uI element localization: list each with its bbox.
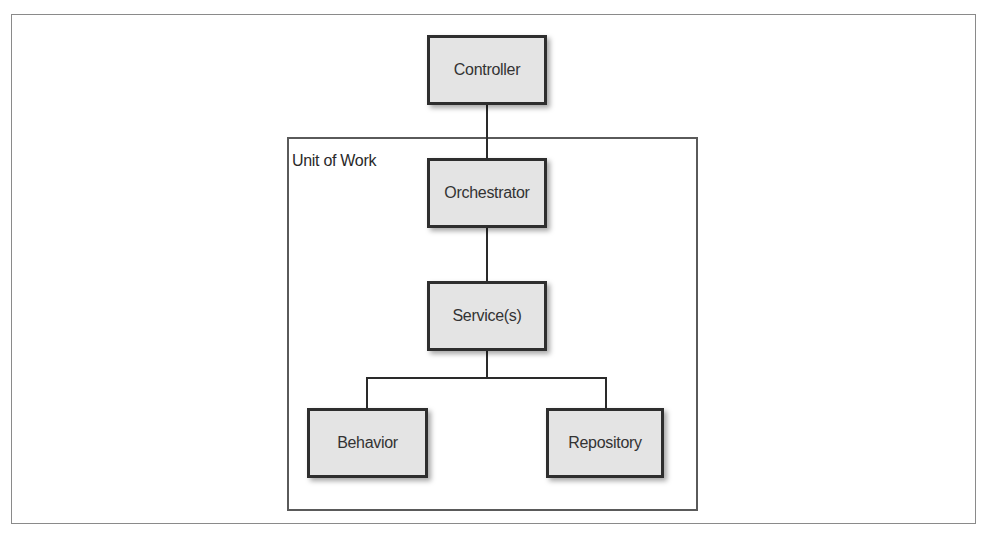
- repository-label: Repository: [568, 434, 641, 452]
- services-label: Service(s): [452, 307, 521, 325]
- edge-branch-behavior: [366, 377, 368, 409]
- orchestrator-node: Orchestrator: [427, 158, 547, 228]
- behavior-label: Behavior: [337, 434, 398, 452]
- edge-services-trunk: [486, 351, 488, 379]
- repository-node: Repository: [546, 408, 664, 478]
- services-node: Service(s): [427, 281, 547, 351]
- edge-orchestrator-services: [486, 228, 488, 282]
- edge-branch-repository: [605, 377, 607, 409]
- behavior-node: Behavior: [307, 408, 428, 478]
- edge-services-branch: [366, 377, 607, 379]
- unit-of-work-label: Unit of Work: [292, 152, 376, 170]
- controller-label: Controller: [454, 61, 520, 79]
- edge-controller-orchestrator: [486, 104, 488, 159]
- orchestrator-label: Orchestrator: [444, 184, 529, 202]
- controller-node: Controller: [427, 35, 547, 105]
